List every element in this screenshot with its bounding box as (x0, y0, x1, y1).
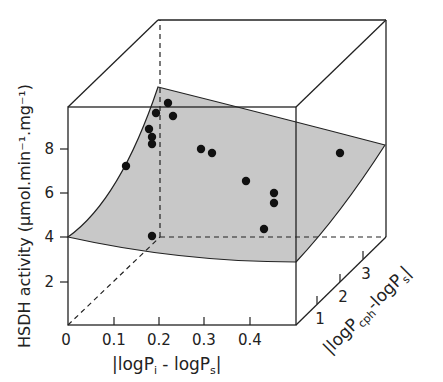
data-point (164, 99, 172, 107)
data-point (336, 149, 344, 157)
y-axis-tick-labels: 8 6 4 2 (44, 140, 54, 291)
z-tick-2: 2 (338, 288, 348, 306)
data-point (208, 149, 216, 157)
data-point (152, 109, 160, 117)
data-point (122, 162, 130, 170)
x-tick-0.1: 0.1 (102, 331, 126, 349)
data-point (145, 125, 153, 133)
y-tick-4: 4 (44, 228, 54, 246)
x-tick-0: 0 (61, 331, 71, 349)
y-axis-label: HSDH activity (µmol.min⁻¹.mg⁻¹) (15, 84, 34, 348)
y-axis-ticks (60, 149, 68, 282)
x-axis-tick-labels: 0 0.1 0.2 0.3 0.4 (61, 331, 262, 349)
z-tick-1: 1 (315, 310, 325, 328)
response-surface (68, 87, 385, 262)
x-tick-0.3: 0.3 (192, 331, 216, 349)
data-point (260, 225, 268, 233)
x-tick-0.2: 0.2 (147, 331, 171, 349)
data-point (169, 112, 177, 120)
y-tick-8: 8 (44, 140, 54, 158)
z-tick-3: 3 (361, 265, 371, 283)
data-point (270, 199, 278, 207)
hsdh-3d-chart: 8 6 4 2 0 0.1 0.2 0.3 0.4 |logPi - logPs… (0, 0, 443, 382)
data-point (148, 140, 156, 148)
data-point (270, 189, 278, 197)
x-axis-ticks (114, 317, 250, 325)
x-axis-label: |logPi - logPs| (112, 354, 222, 377)
y-tick-6: 6 (44, 184, 54, 202)
x-tick-0.4: 0.4 (238, 331, 262, 349)
data-point (242, 177, 250, 185)
y-tick-2: 2 (44, 273, 54, 291)
data-point (197, 145, 205, 153)
data-point (148, 232, 156, 240)
